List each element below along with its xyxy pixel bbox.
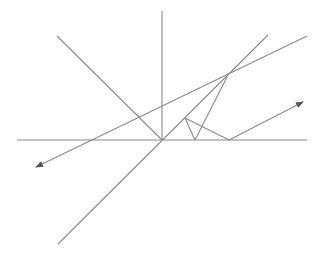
diagram-lines [17, 11, 307, 244]
peak-to-bounce-line [185, 118, 229, 140]
peak-to-foot-line [185, 118, 195, 140]
geometric-ray-diagram [0, 0, 319, 257]
reflected-ray-arrow [229, 102, 303, 140]
incident-diagonal-line [57, 36, 162, 140]
